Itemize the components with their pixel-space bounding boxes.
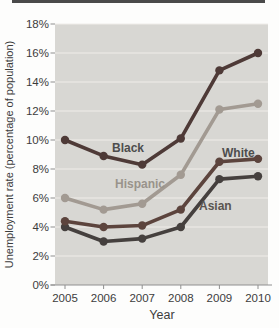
series-label-black: Black — [112, 141, 144, 155]
x-tick-label-2005: 2005 — [52, 292, 78, 304]
data-point-hispanic-2007 — [138, 200, 146, 208]
y-tick-label-0: 0% — [32, 279, 49, 291]
data-point-black-2008 — [177, 134, 185, 142]
data-point-white-2005 — [61, 217, 69, 225]
data-point-black-2006 — [99, 152, 107, 160]
x-tick-label-2009: 2009 — [207, 292, 233, 304]
x-tick-label-2007: 2007 — [129, 292, 155, 304]
y-tick-label-6: 6% — [32, 192, 49, 204]
data-point-white-2008 — [177, 205, 185, 213]
y-tick-label-18: 18% — [26, 18, 49, 30]
data-point-asian-2009 — [215, 175, 223, 183]
x-tick-label-2008: 2008 — [168, 292, 194, 304]
data-point-black-2010 — [254, 49, 262, 57]
data-point-asian-2008 — [177, 223, 185, 231]
data-point-black-2009 — [215, 66, 223, 74]
data-point-hispanic-2006 — [99, 205, 107, 213]
data-point-white-2006 — [99, 223, 107, 231]
series-label-white: White — [222, 146, 255, 160]
data-point-hispanic-2010 — [254, 100, 262, 108]
series-label-asian: Asian — [199, 199, 232, 213]
y-axis-title: Unemployment rate (percentage of populat… — [3, 41, 15, 268]
y-tick-label-2: 2% — [32, 250, 49, 262]
data-point-asian-2007 — [138, 234, 146, 242]
unemployment-line-chart: 0%2%4%6%8%10%12%14%16%18%200520062007200… — [0, 0, 279, 328]
data-point-white-2010 — [254, 155, 262, 163]
data-point-black-2005 — [61, 136, 69, 144]
y-tick-label-12: 12% — [26, 105, 49, 117]
data-point-asian-2010 — [254, 172, 262, 180]
data-point-white-2007 — [138, 221, 146, 229]
data-point-black-2007 — [138, 160, 146, 168]
y-tick-label-10: 10% — [26, 134, 49, 146]
x-tick-label-2006: 2006 — [91, 292, 117, 304]
x-tick-label-2010: 2010 — [245, 292, 271, 304]
data-point-hispanic-2008 — [177, 171, 185, 179]
y-tick-label-8: 8% — [32, 163, 49, 175]
figure-canvas: 0%2%4%6%8%10%12%14%16%18%200520062007200… — [0, 0, 279, 328]
y-tick-label-16: 16% — [26, 47, 49, 59]
series-label-hispanic: Hispanic — [115, 177, 165, 191]
data-point-hispanic-2009 — [215, 105, 223, 113]
x-axis-title: Year — [149, 308, 174, 322]
data-point-hispanic-2005 — [61, 194, 69, 202]
y-tick-label-4: 4% — [32, 221, 49, 233]
y-tick-label-14: 14% — [26, 76, 49, 88]
data-point-asian-2006 — [99, 237, 107, 245]
